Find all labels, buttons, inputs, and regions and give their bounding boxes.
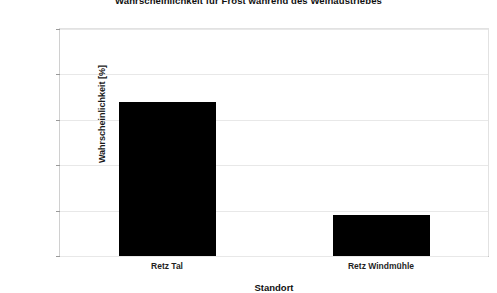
y-tick-mark	[56, 29, 60, 30]
gridline	[60, 74, 488, 75]
x-axis-title: Standort	[60, 282, 488, 293]
gridline	[60, 29, 488, 30]
y-tick-mark	[56, 256, 60, 257]
x-tick-label: Retz Windmühle	[348, 261, 414, 271]
gridline	[60, 256, 488, 257]
y-tick-mark	[56, 165, 60, 166]
plot-area: 100806040200 Wahrscheinlichkeit [%] Retz…	[59, 28, 489, 257]
bar[interactable]	[333, 215, 430, 256]
bar[interactable]	[119, 102, 216, 256]
y-tick-mark	[56, 211, 60, 212]
chart-title: Wahrscheinlichkeit für Frost während des…	[0, 0, 497, 6]
y-axis-title: Wahrscheinlichkeit [%]	[97, 34, 107, 194]
y-tick-mark	[56, 74, 60, 75]
x-tick-label: Retz Tal	[151, 261, 183, 271]
y-tick-mark	[56, 120, 60, 121]
